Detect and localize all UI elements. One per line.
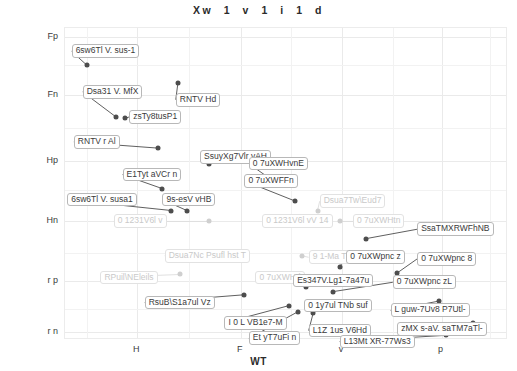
point-label[interactable]: L13Mt XR-77Ws3 — [340, 335, 415, 349]
data-point[interactable] — [113, 114, 118, 119]
point-label[interactable]: 0 1y7ul TNb suf — [304, 299, 371, 313]
scatter-plot-figure: Xw 1 v 1 i 1 d 7 H4 WT FpFnHpHnr pr n HF… — [0, 0, 517, 371]
x-tick-label-3: p — [438, 344, 443, 354]
point-label[interactable]: RNTV r Al — [74, 135, 120, 149]
point-label[interactable]: zMX s-aV. saTM7aTl- — [397, 322, 486, 336]
data-point[interactable] — [169, 208, 174, 213]
point-label[interactable]: SsaTMXRWFhNB — [417, 222, 493, 236]
gridline-horizontal-minor — [65, 190, 506, 191]
y-tick-label-2: Hp — [18, 155, 58, 165]
point-label[interactable]: Et yT7uFi n — [249, 331, 300, 345]
gridline-vertical-minor — [87, 28, 88, 338]
data-point[interactable] — [156, 146, 161, 151]
point-label[interactable]: 0 1231V6l vV 14 — [262, 214, 332, 228]
point-label[interactable]: 0 1231V6l v — [114, 214, 167, 228]
point-label[interactable]: Dsua7Nc Psufl hst T — [165, 249, 250, 263]
point-label[interactable]: RPuil\NEleils — [100, 271, 157, 285]
data-point[interactable] — [178, 272, 183, 277]
point-label[interactable]: 0 7uXWpnc 8 — [417, 252, 476, 266]
gridline-horizontal-minor — [65, 128, 506, 129]
data-point[interactable] — [184, 208, 189, 213]
point-label[interactable]: 0 7uXWHvnE — [249, 157, 308, 171]
gridline-horizontal-minor — [65, 65, 506, 66]
data-point[interactable] — [122, 116, 127, 121]
point-label[interactable]: L guw-7Uv8 P7Utl- — [391, 303, 470, 317]
point-label[interactable]: 6sw6Tl V. susa1 — [67, 193, 137, 207]
y-tick-label-3: Hn — [18, 215, 58, 225]
y-tick-label-0: Fp — [18, 31, 58, 41]
point-label[interactable]: 0 7uXWpnc zL — [393, 275, 456, 289]
data-point[interactable] — [85, 63, 90, 68]
gridline-vertical — [342, 28, 343, 338]
data-point[interactable] — [295, 309, 300, 314]
data-point[interactable] — [242, 292, 247, 297]
gridline-vertical — [442, 28, 443, 338]
data-point[interactable] — [337, 219, 342, 224]
data-point[interactable] — [337, 264, 342, 269]
point-label[interactable]: RsuB\S1a7ul Vz — [145, 296, 215, 310]
point-label[interactable]: Dsa31 V. MfX — [83, 85, 143, 99]
gridline-horizontal — [65, 37, 506, 38]
point-label[interactable]: 0 7uXWHtn — [353, 214, 404, 228]
point-label[interactable]: 9 1-Ma T — [309, 250, 351, 264]
point-label[interactable]: 9s-esV vHB — [162, 193, 215, 207]
point-label[interactable]: RNTV Hd — [176, 93, 220, 107]
y-tick-label-4: r p — [18, 275, 58, 285]
data-point[interactable] — [364, 236, 369, 241]
data-point[interactable] — [293, 199, 298, 204]
data-point[interactable] — [300, 253, 305, 258]
point-label[interactable]: E1Tyt aVCr n — [123, 168, 182, 182]
plot-area: 6sw6Tl V. sus-1Dsa31 V. MfXRNTV HdzsTy8t… — [64, 27, 507, 339]
data-point[interactable] — [175, 80, 180, 85]
x-tick-label-1: F — [237, 344, 243, 354]
data-point[interactable] — [206, 219, 211, 224]
gridline-vertical-minor — [393, 28, 394, 338]
point-label[interactable]: 6sw6Tl V. sus-1 — [72, 44, 140, 58]
data-point[interactable] — [315, 208, 320, 213]
chart-title: Xw 1 v 1 i 1 d — [0, 4, 517, 16]
x-axis-label: WT — [0, 356, 517, 367]
point-label[interactable]: Es347V.Lg1-7a47u — [293, 274, 373, 288]
gridline-vertical — [137, 28, 138, 338]
y-tick-label-1: Fn — [18, 89, 58, 99]
data-point[interactable] — [160, 186, 165, 191]
gridline-vertical-minor — [490, 28, 491, 338]
x-tick-label-0: H — [133, 344, 140, 354]
point-label[interactable]: zsTy8tusP1 — [129, 110, 181, 124]
data-point[interactable] — [286, 303, 291, 308]
data-point[interactable] — [331, 289, 336, 294]
point-label[interactable]: I 0 L VB1e7-M — [224, 316, 286, 330]
gridline-vertical-minor — [189, 28, 190, 338]
gridline-vertical — [241, 28, 242, 338]
point-label[interactable]: 0 7uXWFFn — [244, 174, 297, 188]
point-label[interactable]: Dsua7Tw\Eud7 — [320, 194, 386, 208]
y-tick-label-5: r n — [18, 326, 58, 336]
leader-line — [366, 229, 417, 238]
point-label[interactable]: 0 7uXWpnc z — [346, 250, 405, 264]
